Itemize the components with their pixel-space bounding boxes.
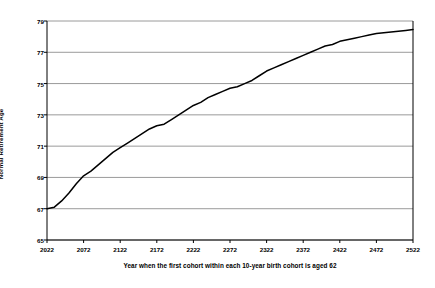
x-axis-tick-label: 2022 [27, 246, 67, 253]
chart-container: Normal Retirement Age 6567697173757779 Y… [0, 0, 435, 288]
x-axis-tick-label: 2522 [393, 246, 433, 253]
x-axis-tick-label: 2172 [137, 246, 177, 253]
plot-area [0, 0, 435, 288]
x-axis-tick-label: 2222 [173, 246, 213, 253]
x-axis-tick-label: 2472 [356, 246, 396, 253]
x-axis-tick-label: 2072 [64, 246, 104, 253]
x-axis-tick-label: 2322 [247, 246, 287, 253]
x-axis-tick-label: 2422 [320, 246, 360, 253]
x-axis-title: Year when the first cohort within each 1… [47, 262, 413, 269]
x-axis-tick-label: 2272 [210, 246, 250, 253]
x-axis-tick-label: 2372 [283, 246, 323, 253]
x-axis-tick-label: 2122 [100, 246, 140, 253]
data-series-line [47, 30, 413, 209]
